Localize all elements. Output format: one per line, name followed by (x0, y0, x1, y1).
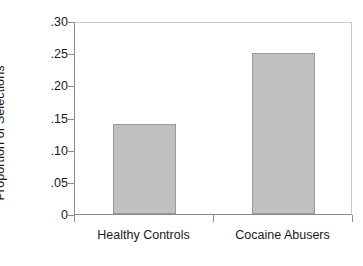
y-tick-label: .20 (28, 80, 68, 93)
y-tick-label: .05 (28, 177, 68, 190)
x-tick-mark (74, 215, 75, 222)
bar (113, 124, 176, 214)
x-tick-mark (213, 215, 214, 222)
x-tick-mark (352, 215, 353, 222)
y-tick-label: .10 (28, 144, 68, 157)
y-axis-title: Proportion of Selections (0, 0, 32, 266)
x-tick-label: Healthy Controls (97, 228, 189, 242)
y-tick-label: 0 (28, 209, 68, 222)
y-tick-label: .15 (28, 112, 68, 125)
x-tick-label: Cocaine Abusers (235, 228, 330, 242)
y-tick-label: .30 (28, 16, 68, 29)
plot-area (74, 22, 352, 215)
bar-chart-figure: Proportion of Selections 0.05.10.15.20.2… (0, 0, 363, 266)
bar (252, 53, 315, 214)
y-tick-label: .25 (28, 48, 68, 61)
